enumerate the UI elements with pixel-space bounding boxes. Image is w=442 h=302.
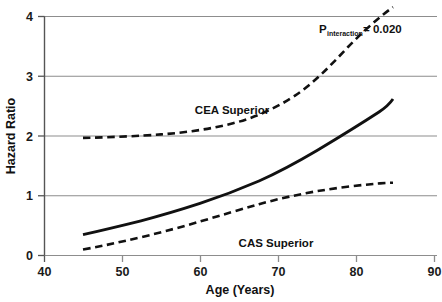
y-tick-label-1: 1 [26,189,33,203]
p-interaction-subscript: interaction [327,30,363,37]
y-tick-label-2: 2 [26,130,33,144]
hazard-ratio-curve [83,99,393,235]
x-tick-label-70: 70 [272,265,286,279]
data-curves [83,7,393,249]
p-interaction-symbol: P [319,23,327,35]
y-tick-label-4: 4 [26,10,33,24]
x-tick-label-90: 90 [428,265,442,279]
y-axis-ticks [38,17,45,256]
y-tick-label-3: 3 [26,70,33,84]
y-tick-label-0: 0 [26,249,33,263]
hazard-ratio-chart: 0 1 2 3 4 40 50 60 70 80 90 Age (Years) … [0,0,442,302]
x-tick-label-60: 60 [194,265,208,279]
cas-superior-label: CAS Superior [239,237,314,249]
y-axis-tick-labels: 0 1 2 3 4 [26,10,33,263]
x-axis-title: Age (Years) [206,283,275,297]
x-tick-label-80: 80 [350,265,364,279]
x-axis-tick-labels: 40 50 60 70 80 90 [38,265,442,279]
cea-superior-label: CEA Superior [195,104,270,116]
p-interaction-annotation: P interaction = 0.020 [319,23,402,37]
upper-ci-curve [83,7,393,138]
y-axis-title: Hazard Ratio [4,97,18,174]
x-axis-ticks [45,256,435,263]
x-tick-label-40: 40 [38,265,52,279]
p-interaction-value: = 0.020 [363,23,402,35]
x-tick-label-50: 50 [116,265,130,279]
chart-canvas: 0 1 2 3 4 40 50 60 70 80 90 Age (Years) … [0,0,442,302]
